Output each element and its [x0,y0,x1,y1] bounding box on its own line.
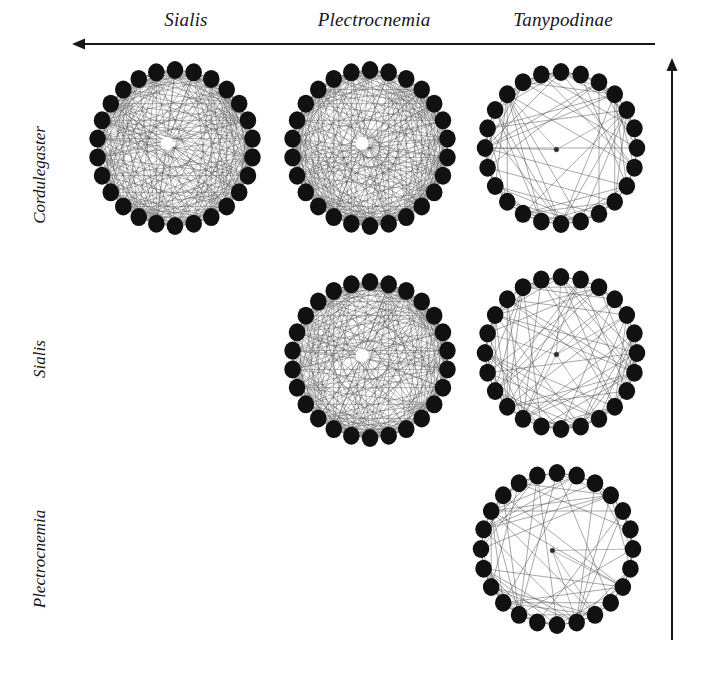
network-node [435,323,452,341]
network-node [587,606,604,624]
network-node [310,409,327,427]
network-node [439,360,456,378]
network-node [203,208,220,226]
network-node [103,183,120,201]
network-node [284,130,301,148]
network-node [435,111,452,129]
network-node [626,119,643,137]
network-node [619,382,636,400]
network-node [325,282,342,300]
network-node [549,616,566,634]
network-node [231,183,248,201]
network-node [94,111,111,129]
network-node [398,420,415,438]
network-node [615,578,632,596]
network-node [487,101,504,119]
network-node [568,613,585,631]
network-node [572,212,589,230]
network-node [619,101,636,119]
network-node [398,70,415,88]
column-gradient-arrow [72,39,655,50]
network-node [533,417,550,435]
row-gradient-arrow [667,58,678,640]
network-node [602,486,619,504]
network-node [218,81,235,99]
network-node [380,427,397,445]
network-node [629,139,646,157]
network-matrix-figure: Sialis Plectrocnemia Tanypodinae Cordule… [0,0,710,679]
network-node [499,193,516,211]
network-node [495,486,512,504]
row-label-plectrocnemia: Plectrocnemia [30,449,50,669]
network-node [426,395,443,413]
network-node [130,70,147,88]
network-node [606,398,623,416]
network-node [487,306,504,324]
network-cell-empty [95,280,255,440]
network-node [473,540,490,558]
network-node [298,183,315,201]
network-node [435,167,452,185]
network-node [549,464,566,482]
network-node [362,273,379,291]
network-node [343,275,360,293]
network-node [606,290,623,308]
network-node [533,271,550,289]
network-node [343,427,360,445]
network-graph-cordulegaster-tanypodinae [470,57,652,239]
network-node [310,293,327,311]
network-node [148,63,165,81]
network-node [475,560,492,578]
network-node [218,197,235,215]
network-node [622,560,639,578]
network-node [477,344,494,362]
network-node [240,111,257,129]
network-node [629,344,646,362]
network-node [115,81,132,99]
network-node [553,215,570,233]
network-node [606,85,623,103]
network-graph-plectrocnemia-tanypodinae [466,458,648,640]
network-node [591,410,608,428]
network-node [185,63,202,81]
network-node [289,167,306,185]
network-node [499,398,516,416]
network-node [622,520,639,538]
network-node [553,268,570,286]
network-node [499,85,516,103]
network-node [515,410,532,428]
network-node [591,278,608,296]
network-node [310,81,327,99]
network-node [244,148,261,166]
network-node [615,502,632,520]
network-graph-sialis-tanypodinae [470,262,652,444]
network-node [606,193,623,211]
network-node [515,278,532,296]
row-label-sialis: Sialis [30,249,50,469]
network-node [499,290,516,308]
network-node [284,360,301,378]
network-node [380,63,397,81]
network-node [298,307,315,325]
network-nodes [477,268,646,438]
network-node [325,70,342,88]
network-node [426,95,443,113]
network-node [511,606,528,624]
network-node [284,342,301,360]
network-node [479,119,496,137]
column-header-tanypodinae: Tanypodinae [443,9,683,31]
network-node [439,130,456,148]
network-node [515,73,532,91]
network-node [240,167,257,185]
network-node [413,197,430,215]
network-node [533,212,550,230]
network-node [298,395,315,413]
network-node [511,474,528,492]
network-node [130,208,147,226]
network-node [591,205,608,223]
network-node [289,323,306,341]
network-node [533,66,550,84]
network-graph-cordulegaster-plectrocnemia [277,55,463,241]
network-node [529,613,546,631]
network-node [619,177,636,195]
